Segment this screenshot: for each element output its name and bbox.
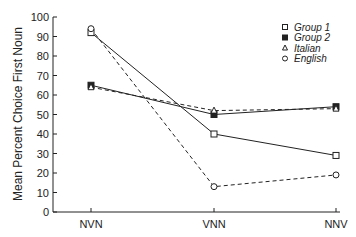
y-tick-label: 70 (37, 70, 49, 82)
filled-square-marker (283, 35, 288, 40)
y-tick-label: 80 (37, 50, 49, 62)
open-circle-marker (88, 26, 94, 32)
y-tick-label: 100 (31, 11, 49, 23)
x-tick-label: VNN (202, 218, 225, 230)
y-tick-label: 10 (37, 187, 49, 199)
x-tick-label: NVN (79, 218, 102, 230)
y-tick-label: 30 (37, 148, 49, 160)
open-circle-marker (333, 172, 339, 178)
legend-label: Group 1 (294, 22, 330, 33)
legend-label: English (294, 53, 327, 64)
legend: Group 1Group 2ItalianEnglish (283, 22, 331, 65)
legend-label: Group 2 (294, 32, 331, 43)
open-circle-marker (211, 184, 217, 190)
y-tick-label: 60 (37, 89, 49, 101)
y-tick-label: 90 (37, 31, 49, 43)
open-triangle-marker (283, 45, 288, 50)
open-square-marker (211, 131, 217, 137)
y-axis-title: Mean Percent Choice First Noun (11, 27, 25, 201)
y-tick-label: 40 (37, 128, 49, 140)
y-tick-label: 0 (43, 206, 49, 218)
y-tick-label: 20 (37, 167, 49, 179)
open-square-marker (283, 25, 288, 30)
y-tick-label: 50 (37, 109, 49, 121)
open-square-marker (333, 152, 339, 158)
line-chart: Mean Percent Choice First Noun 010203040… (0, 0, 356, 237)
legend-label: Italian (294, 43, 321, 54)
y-axis-title-group: Mean Percent Choice First Noun (11, 27, 25, 201)
x-tick-label: NNV (324, 218, 348, 230)
open-circle-marker (283, 56, 288, 61)
